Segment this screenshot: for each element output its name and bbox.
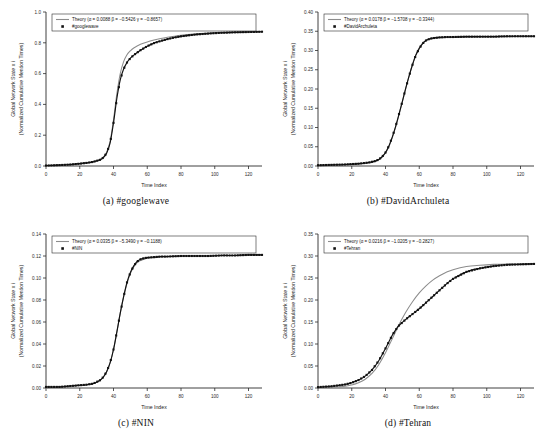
x-tick-label: 80 — [178, 394, 184, 399]
x-tick-label: 100 — [211, 394, 219, 399]
panel-d: 0.000.050.100.150.200.250.300.3502040608… — [272, 222, 544, 444]
x-tick-label: 100 — [211, 172, 219, 177]
data-curve — [46, 255, 262, 387]
legend-series-label: #Tehran — [344, 246, 361, 251]
caption-a: (a) #googlewave — [0, 196, 272, 206]
y-tick-label: 0.06 — [32, 320, 41, 325]
y-tick-label: 0.2 — [35, 133, 42, 138]
y-axis-title-line1: Global Network State x i — [282, 61, 288, 117]
y-axis-title-line2: (Normalized Cumulative Mention Times) — [290, 265, 296, 358]
y-axis-title-line1: Global Network State x i — [282, 283, 288, 339]
x-tick-label: 120 — [517, 394, 525, 399]
legend: Theory (α = 0.0335 β = −5.3490 γ = −0.11… — [52, 236, 256, 253]
legend-theory-label: Theory (α = 0.0178 β = −1.5708 γ = −0.33… — [344, 17, 435, 22]
panel-b: 0.000.050.100.150.200.250.300.350.400204… — [272, 0, 544, 222]
y-tick-label: 0.8 — [35, 41, 42, 46]
legend: Theory (α = 0.0088 β = −0.5426 γ = −0.86… — [52, 14, 256, 31]
y-tick-label: 0.05 — [304, 364, 313, 369]
x-axis-title: Time Index — [141, 404, 167, 410]
x-tick-label: 60 — [417, 172, 423, 177]
x-tick-label: 100 — [483, 394, 491, 399]
panel-c: 0.000.020.040.060.080.100.120.1402040608… — [0, 222, 272, 444]
y-tick-label: 0.20 — [304, 87, 313, 92]
data-curve — [318, 36, 534, 165]
x-tick-label: 100 — [483, 172, 491, 177]
y-tick-label: 0.6 — [35, 71, 42, 76]
x-tick-label: 40 — [111, 172, 117, 177]
caption-b: (b) #DavidArchuleta — [272, 196, 544, 206]
x-axis-title: Time Index — [413, 182, 439, 188]
chart-svg-googlewave: 0.00.20.40.60.81.0020406080100120Time In… — [0, 0, 272, 200]
theory-curve — [46, 255, 262, 388]
y-tick-label: 0.0 — [35, 164, 42, 169]
plot-a: 0.00.20.40.60.81.0020406080100120Time In… — [0, 0, 272, 200]
y-tick-label: 0.10 — [32, 276, 41, 281]
y-tick-label: 0.00 — [304, 386, 313, 391]
data-markers — [45, 31, 263, 167]
y-axis-title-line1: Global Network State x i — [10, 61, 16, 117]
x-tick-label: 80 — [178, 172, 184, 177]
plot-d: 0.000.050.100.150.200.250.300.3502040608… — [272, 222, 544, 422]
legend: Theory (α = 0.0178 β = −1.5708 γ = −0.33… — [324, 14, 528, 31]
data-markers — [45, 254, 263, 388]
x-tick-label: 80 — [450, 172, 456, 177]
legend-theory-label: Theory (α = 0.0216 β = −1.0205 γ = −0.28… — [344, 239, 435, 244]
data-markers — [317, 263, 535, 388]
x-tick-label: 0 — [45, 172, 48, 177]
x-tick-label: 20 — [349, 394, 355, 399]
plot-b: 0.000.050.100.150.200.250.300.350.400204… — [272, 0, 544, 200]
y-tick-label: 0.10 — [304, 342, 313, 347]
y-tick-label: 0.35 — [304, 29, 313, 34]
x-tick-label: 40 — [383, 172, 389, 177]
y-tick-label: 0.00 — [304, 164, 313, 169]
data-curve — [46, 32, 262, 166]
y-tick-label: 0.15 — [304, 320, 313, 325]
x-tick-label: 20 — [349, 172, 355, 177]
legend: Theory (α = 0.0216 β = −1.0205 γ = −0.28… — [324, 236, 528, 253]
y-tick-label: 0.12 — [32, 254, 41, 259]
x-tick-label: 60 — [145, 172, 151, 177]
x-tick-label: 60 — [417, 394, 423, 399]
data-curve — [318, 264, 534, 387]
x-tick-label: 0 — [317, 394, 320, 399]
plot-c: 0.000.020.040.060.080.100.120.1402040608… — [0, 222, 272, 422]
x-tick-label: 80 — [450, 394, 456, 399]
y-tick-label: 0.08 — [32, 298, 41, 303]
y-tick-label: 0.15 — [304, 106, 313, 111]
y-tick-label: 0.40 — [304, 10, 313, 15]
caption-d: (d) #Tehran — [272, 418, 544, 428]
y-tick-label: 0.00 — [32, 386, 41, 391]
x-axis-title: Time Index — [413, 404, 439, 410]
x-tick-label: 40 — [111, 394, 117, 399]
y-tick-label: 0.25 — [304, 276, 313, 281]
y-tick-label: 0.35 — [304, 232, 313, 237]
chart-svg-DavidArchuleta: 0.000.050.100.150.200.250.300.350.400204… — [272, 0, 544, 200]
x-tick-label: 20 — [77, 172, 83, 177]
x-tick-label: 120 — [245, 172, 253, 177]
y-axis-title-line2: (Normalized Cumulative Mention Times) — [18, 43, 24, 136]
x-tick-label: 120 — [245, 394, 253, 399]
y-tick-label: 1.0 — [35, 10, 42, 15]
x-tick-label: 40 — [383, 394, 389, 399]
legend-series-label: #googlewave — [72, 24, 99, 29]
y-tick-label: 0.04 — [32, 342, 41, 347]
theory-curve — [318, 264, 534, 388]
y-axis-title-line2: (Normalized Cumulative Mention Times) — [290, 43, 296, 136]
legend-theory-label: Theory (α = 0.0088 β = −0.5426 γ = −0.86… — [72, 17, 163, 22]
y-tick-label: 0.05 — [304, 144, 313, 149]
y-tick-label: 0.20 — [304, 298, 313, 303]
y-axis-title-line1: Global Network State x i — [10, 283, 16, 339]
x-tick-label: 60 — [145, 394, 151, 399]
x-tick-label: 20 — [77, 394, 83, 399]
y-tick-label: 0.30 — [304, 254, 313, 259]
y-tick-label: 0.02 — [32, 364, 41, 369]
caption-c: (c) #NIN — [0, 418, 272, 428]
four-panel-figure: 0.00.20.40.60.81.0020406080100120Time In… — [0, 0, 544, 444]
y-tick-label: 0.10 — [304, 125, 313, 130]
y-tick-label: 0.4 — [35, 102, 42, 107]
x-tick-label: 0 — [317, 172, 320, 177]
chart-svg-NIN: 0.000.020.040.060.080.100.120.1402040608… — [0, 222, 272, 422]
y-axis-title-line2: (Normalized Cumulative Mention Times) — [18, 265, 24, 358]
chart-svg-Tehran: 0.000.050.100.150.200.250.300.3502040608… — [272, 222, 544, 422]
theory-curve — [318, 36, 534, 165]
